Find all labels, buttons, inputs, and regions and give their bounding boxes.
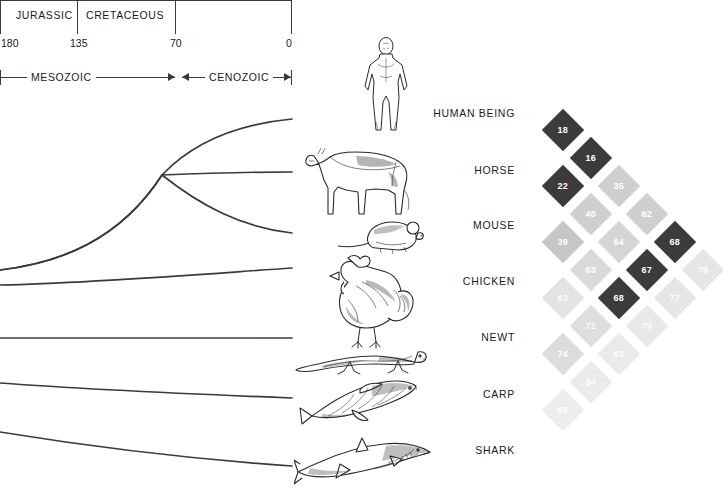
matrix-cell: 68: [598, 277, 640, 319]
matrix-cell: 16: [570, 137, 612, 179]
matrix-cell-value: 79: [642, 322, 653, 331]
matrix-cell: 64: [598, 221, 640, 263]
matrix-cell-value: 22: [558, 182, 569, 191]
matrix-cell: 72: [570, 305, 612, 347]
matrix-cell: 35: [598, 165, 640, 207]
matrix-cell-value: 83: [614, 350, 625, 359]
matrix-cell: 79: [682, 249, 724, 291]
matrix-cell-value: 64: [614, 238, 625, 247]
matrix-cell-value: 62: [642, 210, 653, 219]
matrix-cell: 67: [626, 249, 668, 291]
matrix-cell: 18: [542, 109, 584, 151]
matrix-cell: 83: [598, 333, 640, 375]
matrix-cell: 40: [570, 193, 612, 235]
matrix-cell: 84: [570, 361, 612, 403]
matrix-cell: 39: [542, 221, 584, 263]
matrix-cell-value: 18: [558, 126, 569, 135]
matrix-cell: 63: [542, 277, 584, 319]
matrix-cell-value: 72: [586, 322, 597, 331]
matrix-cell: 77: [654, 277, 696, 319]
matrix-cell: 79: [626, 305, 668, 347]
matrix-cell: 68: [654, 221, 696, 263]
matrix-cell-value: 63: [586, 266, 597, 275]
matrix-cell: 74: [542, 333, 584, 375]
matrix-cell-value: 39: [558, 238, 569, 247]
matrix-cell-value: 85: [558, 406, 569, 415]
matrix-cell-value: 63: [558, 294, 569, 303]
matrix-cell-value: 68: [614, 294, 625, 303]
matrix-cell: 85: [542, 389, 584, 431]
matrix-cell: 63: [570, 249, 612, 291]
matrix-cell: 62: [626, 193, 668, 235]
matrix-cell-value: 35: [614, 182, 625, 191]
matrix-cell-value: 40: [586, 210, 597, 219]
matrix-cell-value: 77: [670, 294, 681, 303]
matrix-cell-value: 68: [670, 238, 681, 247]
difference-matrix: 1816223540623964686367796368777279748384…: [0, 0, 728, 497]
matrix-cell-value: 84: [586, 378, 597, 387]
matrix-cell-value: 74: [558, 350, 569, 359]
matrix-cell-value: 16: [586, 154, 597, 163]
matrix-cell-value: 67: [642, 266, 653, 275]
matrix-cell: 22: [542, 165, 584, 207]
matrix-cell-value: 79: [698, 266, 709, 275]
